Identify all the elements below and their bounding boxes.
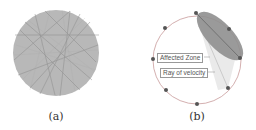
affected-zone-label: Affected Zone	[157, 53, 203, 63]
caption-b: (b)	[189, 110, 205, 123]
ray-of-velocity-label: Ray of velocity	[160, 68, 208, 78]
caption-a: (a)	[48, 110, 63, 123]
panel-a-disk	[13, 10, 99, 96]
figure-canvas	[0, 0, 256, 130]
